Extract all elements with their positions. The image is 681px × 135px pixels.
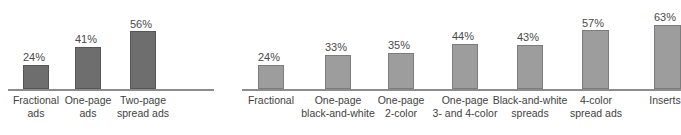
- value-label: 35%: [371, 39, 427, 52]
- value-label: 33%: [308, 41, 364, 54]
- bar-chart-figure: 24% Fractional ads 41% One-page ads 56% …: [0, 0, 681, 135]
- category-label: Fractional: [236, 94, 306, 107]
- category-label-line1: Fractional: [248, 94, 294, 106]
- category-label-line1: 4-color: [580, 94, 612, 106]
- category-label-line1: One-page: [442, 94, 489, 106]
- category-label-line1: Fractional: [13, 94, 59, 106]
- value-label: 41%: [58, 33, 114, 46]
- category-label-line1: Black-and-white: [493, 94, 568, 106]
- category-label: Inserts: [636, 94, 681, 107]
- value-label: 56%: [113, 18, 169, 31]
- category-label-line1: One-page: [65, 94, 112, 106]
- category-label: 4-color spread ads: [558, 94, 634, 119]
- baseline-axis-right: [242, 89, 681, 91]
- bar: [582, 30, 609, 89]
- value-label: 24%: [241, 51, 297, 64]
- chart-panel-right: 24% Fractional 33% One-page black-and-wh…: [232, 0, 681, 135]
- bar: [75, 47, 101, 89]
- category-label-line1: One-page: [378, 94, 425, 106]
- bar: [258, 65, 284, 89]
- bar: [388, 53, 414, 89]
- category-label-line2: spread ads: [107, 107, 179, 120]
- bar: [517, 45, 543, 89]
- value-label: 24%: [6, 51, 62, 64]
- bar: [654, 25, 681, 89]
- chart-panel-left: 24% Fractional ads 41% One-page ads 56% …: [0, 0, 232, 135]
- bar: [130, 31, 156, 89]
- category-label: Two-page spread ads: [107, 94, 179, 119]
- value-label: 43%: [500, 31, 556, 44]
- value-label: 63%: [637, 11, 681, 24]
- value-label: 57%: [565, 17, 621, 30]
- bar: [452, 44, 478, 89]
- baseline-axis-left: [8, 89, 214, 91]
- category-label-line1: One-page: [315, 94, 362, 106]
- category-label-line1: Inserts: [649, 94, 681, 106]
- category-label-line1: Two-page: [120, 94, 166, 106]
- category-label-line2: spread ads: [558, 107, 634, 120]
- bar: [23, 65, 49, 89]
- bar: [325, 55, 351, 89]
- value-label: 44%: [435, 30, 491, 43]
